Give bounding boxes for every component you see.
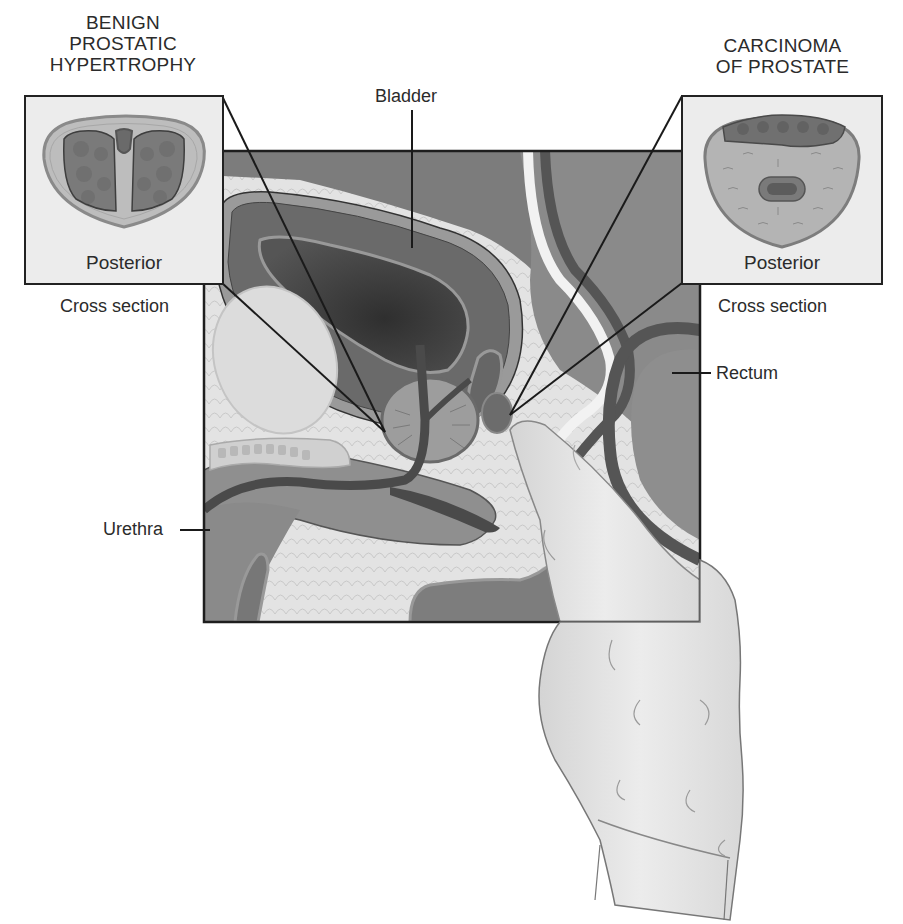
carcinoma-cross-section-inset: Posterior [681, 95, 883, 285]
carcinoma-posterior-label: Posterior [683, 252, 881, 274]
bph-cross-section-diagram [26, 99, 222, 249]
bladder-label: Bladder [375, 86, 437, 107]
bph-posterior-label: Posterior [26, 252, 222, 274]
carcinoma-cross-section-caption: Cross section [718, 296, 827, 317]
bph-cross-section-inset: Posterior [24, 95, 224, 285]
urethra-label: Urethra [103, 519, 163, 540]
rectum-label: Rectum [716, 363, 778, 384]
main-illustration-content [193, 151, 700, 622]
carcinoma-cross-section-diagram [683, 99, 881, 254]
bph-cross-section-caption: Cross section [60, 296, 169, 317]
